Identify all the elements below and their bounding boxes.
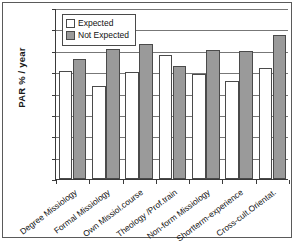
x-tick-mark [222,180,223,184]
bar-not-expected [173,66,187,179]
x-tick-mark [123,180,124,184]
x-tick-mark [156,180,157,184]
bar-not-expected [73,59,87,179]
bar-expected [59,71,73,179]
bar-expected [125,72,139,179]
x-tick-mark [89,180,90,184]
legend-label-expected: Expected [78,19,113,28]
bar-expected [192,74,206,179]
bar-expected [259,68,273,179]
bar-not-expected [139,44,153,179]
chart-figure: PAR % / year 876543210 Expected Not Expe… [0,0,295,241]
bar-expected [92,86,106,179]
bar-expected [159,55,173,179]
bar-not-expected [206,50,220,179]
bar-expected [225,81,239,179]
legend-label-not-expected: Not Expected [78,31,129,40]
x-tick-mark [289,180,290,184]
chart-legend: Expected Not Expected [62,14,136,46]
x-tick-mark [189,180,190,184]
x-tick-mark [256,180,257,184]
y-axis-title: PAR % / year [16,30,27,126]
bar-not-expected [106,49,120,179]
x-tick-mark [56,180,57,184]
legend-item-not-expected: Not Expected [66,30,132,41]
bar-not-expected [239,51,253,179]
bar-not-expected [273,35,287,179]
legend-swatch-expected [66,19,75,28]
legend-item-expected: Expected [66,18,132,29]
legend-swatch-not-expected [66,31,75,40]
